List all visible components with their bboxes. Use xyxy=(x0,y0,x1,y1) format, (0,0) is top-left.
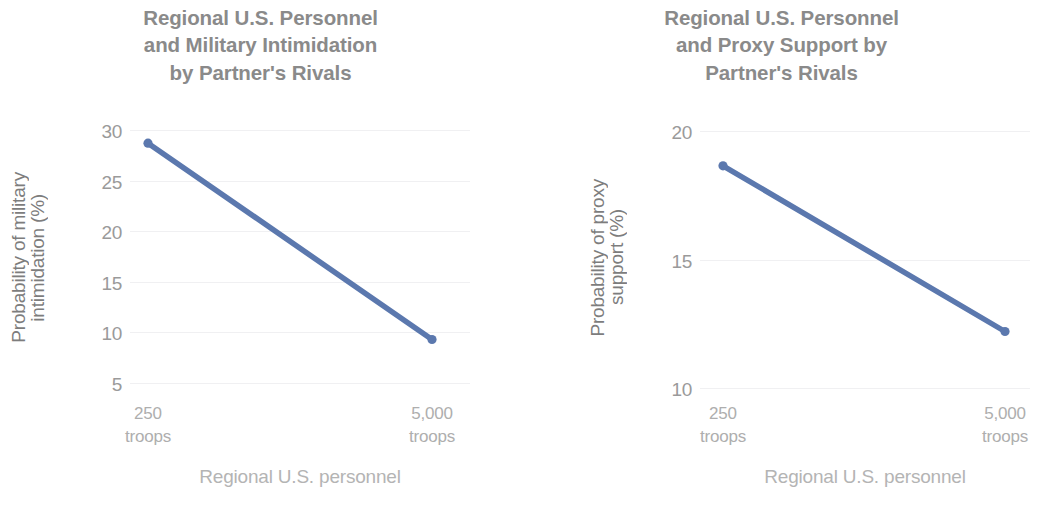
y-axis-label-line-2: support (%) xyxy=(607,209,626,305)
y-tick-label-15: 15 xyxy=(72,274,122,293)
x-tick-250-value: 250 xyxy=(108,403,188,426)
data-point-250-troops xyxy=(143,139,152,148)
y-tick-label-25: 25 xyxy=(72,173,122,192)
gridline-10 xyxy=(700,388,1030,389)
data-point-5000-troops xyxy=(1000,327,1009,336)
chart-panel-military-intimidation: Regional U.S. Personnel and Military Int… xyxy=(0,0,521,508)
chart-title-line-3: Partner's Rivals xyxy=(632,59,932,86)
x-tick-label-250: 250 troops xyxy=(683,403,763,449)
x-tick-250-unit: troops xyxy=(108,426,188,449)
chart-title: Regional U.S. Personnel and Military Int… xyxy=(111,4,411,86)
y-axis-label: Probability of military intimidation (%) xyxy=(0,120,56,395)
gridline-5 xyxy=(130,383,470,384)
trend-line xyxy=(723,166,1005,332)
x-tick-5000-unit: troops xyxy=(965,426,1042,449)
data-point-5000-troops xyxy=(427,335,436,344)
chart-title-line-3: by Partner's Rivals xyxy=(111,59,411,86)
chart-title-line-2: and Military Intimidation xyxy=(111,31,411,58)
chart-title-line-1: Regional U.S. Personnel xyxy=(111,4,411,31)
chart-panel-proxy-support: Regional U.S. Personnel and Proxy Suppor… xyxy=(521,0,1042,508)
y-tick-label-20: 20 xyxy=(642,123,692,142)
y-tick-label-5: 5 xyxy=(72,375,122,394)
plot-area xyxy=(700,131,1030,388)
trend-line xyxy=(148,143,432,339)
x-tick-5000-unit: troops xyxy=(392,426,472,449)
data-point-250-troops xyxy=(718,161,727,170)
plot-area xyxy=(130,130,470,383)
figure-canvas: Regional U.S. Personnel and Military Int… xyxy=(0,0,1042,508)
y-tick-label-10: 10 xyxy=(642,380,692,399)
x-axis-label: Regional U.S. personnel xyxy=(700,466,1030,488)
chart-title-line-1: Regional U.S. Personnel xyxy=(632,4,932,31)
x-tick-label-250: 250 troops xyxy=(108,403,188,449)
y-axis-label-line-1: Probability of proxy xyxy=(588,179,607,337)
data-series-line xyxy=(130,130,470,383)
chart-title-line-2: and Proxy Support by xyxy=(632,31,932,58)
x-tick-250-value: 250 xyxy=(683,403,763,426)
y-tick-label-15: 15 xyxy=(642,252,692,271)
y-axis-label-line-2: intimidation (%) xyxy=(28,194,47,322)
x-axis-label: Regional U.S. personnel xyxy=(130,466,470,488)
y-axis-label-line-1: Probability of military xyxy=(9,172,28,343)
y-tick-label-10: 10 xyxy=(72,324,122,343)
data-series-line xyxy=(700,131,1030,388)
x-tick-5000-value: 5,000 xyxy=(392,403,472,426)
y-axis-label: Probability of proxy support (%) xyxy=(579,120,635,395)
x-tick-250-unit: troops xyxy=(683,426,763,449)
x-tick-label-5000: 5,000 troops xyxy=(392,403,472,449)
y-tick-label-20: 20 xyxy=(72,223,122,242)
y-tick-label-30: 30 xyxy=(72,122,122,141)
x-tick-5000-value: 5,000 xyxy=(965,403,1042,426)
chart-title: Regional U.S. Personnel and Proxy Suppor… xyxy=(632,4,932,86)
x-tick-label-5000: 5,000 troops xyxy=(965,403,1042,449)
